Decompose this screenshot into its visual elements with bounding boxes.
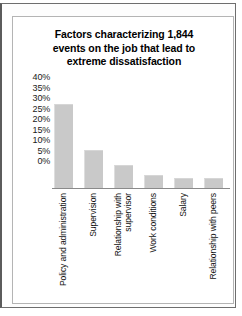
y-axis-tick-label: 5% bbox=[14, 147, 50, 156]
bar-slot bbox=[84, 104, 103, 188]
bar-slot bbox=[174, 104, 193, 188]
category-label-line: supervisor bbox=[124, 193, 134, 256]
y-axis-tick-label: 20% bbox=[14, 115, 50, 124]
category-label: Salary bbox=[179, 193, 189, 217]
category-label: Relationship withsupervisor bbox=[114, 193, 133, 256]
x-axis-category-labels: Policy and administrationSupervisionRela… bbox=[52, 191, 232, 303]
category-label-line: Work conditions bbox=[148, 193, 158, 252]
plot-area: 40%35%30%25%20%15%10%5%0% Policy and adm… bbox=[14, 77, 234, 303]
y-axis-tick-label: 0% bbox=[14, 157, 50, 166]
y-axis-tick-label: 35% bbox=[14, 84, 50, 93]
x-axis-line bbox=[52, 188, 230, 189]
bar[interactable] bbox=[204, 178, 223, 189]
category-label-slot: Relationship with peers bbox=[204, 191, 223, 303]
category-label-line: Relationship with bbox=[113, 193, 123, 256]
bar-slot bbox=[204, 104, 223, 188]
category-label-slot: Relationship withsupervisor bbox=[114, 191, 133, 303]
category-label-slot: Salary bbox=[174, 191, 193, 303]
category-label-line: Policy and administration bbox=[58, 193, 68, 286]
bar[interactable] bbox=[174, 178, 193, 189]
chart-panel: Factors characterizing 1,844 events on t… bbox=[12, 16, 234, 304]
category-label-slot: Work conditions bbox=[144, 191, 163, 303]
bar-slot bbox=[144, 104, 163, 188]
chart-title-line-2: events on the job that lead to bbox=[19, 42, 229, 56]
bar[interactable] bbox=[144, 175, 163, 188]
y-axis-tick-label: 30% bbox=[14, 94, 50, 103]
bar[interactable] bbox=[84, 150, 103, 188]
category-label-line: Salary bbox=[178, 193, 188, 217]
category-label: Work conditions bbox=[149, 193, 159, 252]
y-axis-tick-label: 40% bbox=[14, 73, 50, 82]
category-label: Relationship with peers bbox=[209, 193, 219, 280]
bar-slot bbox=[114, 104, 133, 188]
category-label-slot: Policy and administration bbox=[54, 191, 73, 303]
chart-title-line-1: Factors characterizing 1,844 bbox=[19, 28, 229, 42]
chart-title: Factors characterizing 1,844 events on t… bbox=[19, 28, 229, 69]
chart-title-line-3: extreme dissatisfaction bbox=[19, 55, 229, 69]
figure-frame: Factors characterizing 1,844 events on t… bbox=[0, 3, 236, 308]
bars-region bbox=[52, 77, 232, 189]
y-axis-tick-label: 10% bbox=[14, 136, 50, 145]
y-axis-tick-label: 15% bbox=[14, 126, 50, 135]
bar[interactable] bbox=[114, 165, 133, 188]
category-label-slot: Supervision bbox=[84, 191, 103, 303]
category-label-line: Relationship with peers bbox=[208, 193, 218, 280]
category-label: Supervision bbox=[89, 193, 99, 237]
bar[interactable] bbox=[54, 104, 73, 188]
bar-slot bbox=[54, 104, 73, 188]
y-axis-tick-label: 25% bbox=[14, 105, 50, 114]
y-axis: 40%35%30%25%20%15%10%5%0% bbox=[14, 77, 50, 169]
category-label-line: Supervision bbox=[88, 193, 98, 237]
category-label: Policy and administration bbox=[59, 193, 69, 286]
